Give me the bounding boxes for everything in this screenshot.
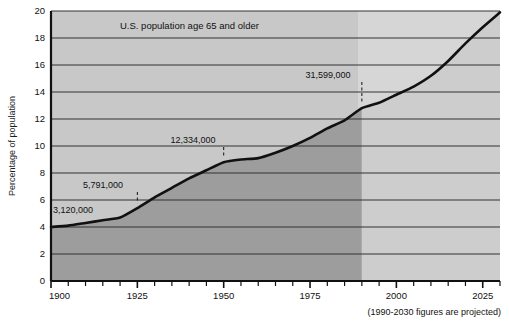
y-tick-label: 8: [40, 167, 45, 178]
chart-container: 02468101214161820 1900192519501975200020…: [0, 0, 509, 323]
x-tick-label: 1975: [299, 290, 320, 301]
annotation-value-label: 3,120,000: [53, 205, 93, 215]
y-tick-label: 2: [40, 248, 45, 259]
y-tick-label: 12: [34, 113, 45, 124]
footnote: (1990-2030 figures are projected): [367, 307, 501, 317]
annotation-value-label: 31,599,000: [305, 70, 350, 80]
y-tick-label: 4: [40, 221, 45, 232]
annotation-value-label: 5,791,000: [83, 180, 123, 190]
y-tick-label: 20: [34, 5, 45, 16]
x-tick-label: 1925: [127, 290, 148, 301]
y-tick-label: 16: [34, 59, 45, 70]
y-tick-label: 18: [34, 32, 45, 43]
x-tick-label: 1950: [213, 290, 234, 301]
y-axis-title: Percentage of population: [7, 96, 17, 196]
y-tick-label: 14: [34, 86, 45, 97]
x-tick-label: 2025: [472, 290, 493, 301]
annotation-value-label: 12,334,000: [170, 135, 215, 145]
population-chart-svg: 02468101214161820 1900192519501975200020…: [0, 0, 509, 323]
y-tick-label: 0: [40, 275, 45, 286]
chart-title: U.S. population age 65 and older: [120, 20, 259, 31]
y-tick-label: 10: [34, 140, 45, 151]
y-tick-label: 6: [40, 194, 45, 205]
x-tick-label: 2000: [386, 290, 407, 301]
x-tick-label: 1900: [49, 290, 70, 301]
